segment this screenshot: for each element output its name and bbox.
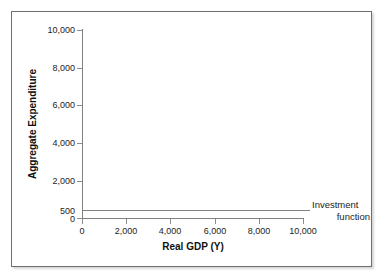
x-tick-mark xyxy=(259,219,260,224)
x-axis-line xyxy=(82,218,304,219)
x-tick-label: 10,000 xyxy=(289,226,317,236)
y-tick-label: 8,000 xyxy=(52,63,75,73)
y-tick-label-zero: 0 xyxy=(70,214,75,224)
x-tick-label: 2,000 xyxy=(115,226,138,236)
plot-area: 10,000 8,000 6,000 4,000 2,000 500 0 0 2… xyxy=(0,0,388,280)
y-tick-label: 2,000 xyxy=(52,176,75,186)
y-tick-label: 10,000 xyxy=(47,25,75,35)
investment-function-line xyxy=(82,210,310,211)
y-tick-mark xyxy=(77,105,82,106)
x-tick-mark xyxy=(82,219,83,224)
x-tick-label: 4,000 xyxy=(159,226,182,236)
x-axis-title: Real GDP (Y) xyxy=(82,241,304,252)
y-tick-mark xyxy=(77,68,82,69)
y-tick-mark xyxy=(77,181,82,182)
investment-annotation-line1: Investment xyxy=(312,199,370,211)
figure-container: 10,000 8,000 6,000 4,000 2,000 500 0 0 2… xyxy=(0,0,388,280)
y-tick-mark xyxy=(77,143,82,144)
x-tick-label: 8,000 xyxy=(248,226,271,236)
x-tick-mark xyxy=(170,219,171,224)
y-axis-title: Aggregate Expenditure xyxy=(27,69,38,179)
y-tick-label: 6,000 xyxy=(52,100,75,110)
x-tick-mark xyxy=(215,219,216,224)
y-tick-label: 4,000 xyxy=(52,138,75,148)
y-axis-line xyxy=(82,29,83,219)
x-tick-label: 0 xyxy=(79,226,84,236)
investment-annotation-line2: function xyxy=(312,211,370,223)
y-tick-mark xyxy=(77,30,82,31)
x-tick-mark xyxy=(303,219,304,224)
x-tick-mark xyxy=(126,219,127,224)
x-tick-label: 6,000 xyxy=(204,226,227,236)
investment-function-annotation: Investment function xyxy=(312,199,370,222)
